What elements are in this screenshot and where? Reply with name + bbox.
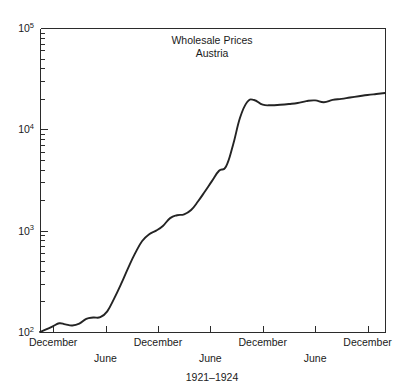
data-series-line: [40, 93, 385, 332]
chart-subtitle: Austria: [196, 47, 229, 59]
x-axis-label-june: June: [199, 352, 222, 364]
x-axis-label-december: December: [239, 336, 288, 348]
y-axis-tick-label: 103: [18, 223, 34, 237]
x-axis-label-june: June: [94, 352, 117, 364]
x-axis-ticks: [54, 326, 369, 332]
x-axis-tick-labels: DecemberDecemberDecemberDecemberJuneJune…: [29, 336, 392, 364]
y-axis-ticks: [41, 29, 48, 333]
x-axis-label-december: December: [29, 336, 78, 348]
chart-container: 105104103102 DecemberDecemberDecemberDec…: [0, 0, 397, 392]
y-axis-tick-labels: 105104103102: [18, 21, 34, 339]
wholesale-prices-chart: 105104103102 DecemberDecemberDecemberDec…: [0, 0, 397, 392]
x-axis-label-june: June: [304, 352, 327, 364]
y-axis-tick-label: 104: [18, 122, 34, 136]
x-axis-title: 1921–1924: [186, 371, 239, 383]
y-axis-tick-label: 105: [18, 21, 34, 35]
x-axis-label-december: December: [343, 336, 392, 348]
x-axis-label-december: December: [134, 336, 183, 348]
chart-title: Wholesale Prices: [171, 34, 252, 46]
